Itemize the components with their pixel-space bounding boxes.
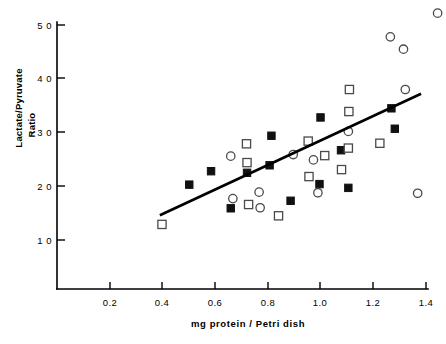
data-point-filled-square xyxy=(207,168,214,175)
y-axis-title-line2: Ratio xyxy=(26,113,37,138)
x-tick-label-0.8: 0.8 xyxy=(261,297,276,308)
data-point-open-square xyxy=(242,140,250,148)
data-point-open-square xyxy=(321,152,329,160)
data-point-open-circle xyxy=(227,152,235,160)
data-point-filled-square xyxy=(391,125,398,132)
chart-figure: 5 0 4 0 3 0 2 0 1 0 0.2 0.4 0.6 0.8 1.0 … xyxy=(0,0,446,344)
data-point-open-square xyxy=(376,139,384,147)
data-point-open-circle xyxy=(399,45,407,53)
x-axis-title: mg protein / Petri dish xyxy=(191,318,305,329)
data-point-filled-square xyxy=(337,147,344,154)
scatter-plot: 5 0 4 0 3 0 2 0 1 0 0.2 0.4 0.6 0.8 1.0 … xyxy=(0,0,446,344)
x-tick-label-1.0: 1.0 xyxy=(313,297,328,308)
data-point-open-square xyxy=(274,212,282,220)
data-point-filled-square xyxy=(345,184,352,191)
data-point-open-circle xyxy=(401,85,409,93)
y-axis-ticks xyxy=(57,25,65,240)
data-point-filled-square xyxy=(316,180,323,187)
data-point-filled-square xyxy=(317,114,324,121)
x-tick-label-0.2: 0.2 xyxy=(103,297,118,308)
data-point-open-circle xyxy=(229,194,237,202)
data-point-filled-square xyxy=(186,181,193,188)
y-tick-label-20: 2 0 xyxy=(37,181,52,192)
y-tick-label-50: 5 0 xyxy=(37,20,52,31)
data-point-open-square xyxy=(158,220,166,228)
data-point-open-square xyxy=(344,144,352,152)
data-point-open-circle xyxy=(433,9,441,17)
y-tick-label-40: 4 0 xyxy=(37,73,52,84)
x-tick-label-1.4: 1.4 xyxy=(419,297,434,308)
data-point-open-square xyxy=(345,85,353,93)
x-tick-label-0.6: 0.6 xyxy=(208,297,223,308)
data-point-open-circle xyxy=(255,188,263,196)
data-point-filled-square xyxy=(268,132,275,139)
series-open-circle xyxy=(227,9,442,212)
data-point-open-circle xyxy=(256,204,264,212)
data-point-open-circle xyxy=(314,189,322,197)
y-tick-label-30: 3 0 xyxy=(37,127,52,138)
data-point-open-square xyxy=(245,200,253,208)
data-point-filled-square xyxy=(227,205,234,212)
series-open-square xyxy=(158,85,384,228)
data-point-open-square xyxy=(305,172,313,180)
data-point-open-circle xyxy=(413,189,421,197)
x-tick-label-1.2: 1.2 xyxy=(366,297,381,308)
data-point-open-square xyxy=(345,107,353,115)
data-point-filled-square xyxy=(287,197,294,204)
data-point-open-circle xyxy=(386,33,394,41)
y-axis-title-line1: Lactate/Pyruvate xyxy=(13,68,24,147)
data-point-open-square xyxy=(243,159,251,167)
data-point-open-circle xyxy=(309,156,317,164)
data-point-open-square xyxy=(337,165,345,173)
y-tick-label-10: 1 0 xyxy=(37,235,52,246)
x-tick-label-0.4: 0.4 xyxy=(155,297,170,308)
x-axis-ticks xyxy=(110,282,426,289)
